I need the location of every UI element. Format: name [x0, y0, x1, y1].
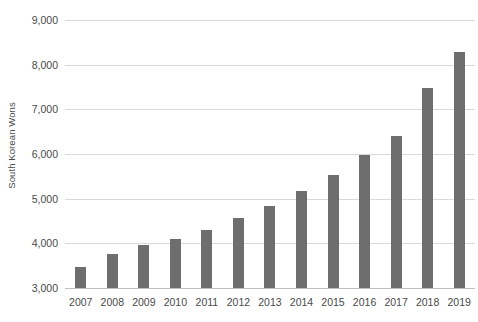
- x-axis-tick-label: 2017: [384, 296, 407, 308]
- bar-slot: [128, 20, 160, 288]
- x-axis-tick-slot: 2018: [412, 292, 444, 310]
- y-axis-tick-label: 9,000: [32, 14, 58, 26]
- bar-slot: [412, 20, 444, 288]
- x-axis-tick-label: 2016: [353, 296, 376, 308]
- bar[interactable]: [391, 136, 402, 288]
- y-axis-title-text: South Korean Wons: [6, 102, 17, 189]
- bar[interactable]: [264, 206, 275, 288]
- bar[interactable]: [107, 254, 118, 288]
- x-axis-tick-slot: 2013: [254, 292, 286, 310]
- y-axis-tick-label: 8,000: [32, 59, 58, 71]
- bar-slot: [254, 20, 286, 288]
- bar-slot: [65, 20, 97, 288]
- plot-area: 3,0004,0005,0006,0007,0008,0009,000: [65, 20, 475, 288]
- x-axis-tick-slot: 2008: [97, 292, 129, 310]
- y-axis-tick-label: 3,000: [32, 282, 58, 294]
- bar-slot: [443, 20, 475, 288]
- bars-layer: [65, 20, 475, 288]
- bar[interactable]: [422, 88, 433, 288]
- x-axis-tick-slot: 2011: [191, 292, 223, 310]
- y-axis-tick-label: 7,000: [32, 103, 58, 115]
- x-axis-labels: 2007200820092010201120122013201420152016…: [65, 292, 475, 310]
- bar-chart: South Korean Wons 3,0004,0005,0006,0007,…: [0, 0, 478, 322]
- bar[interactable]: [138, 245, 149, 288]
- x-axis-tick-slot: 2017: [380, 292, 412, 310]
- x-axis-tick-label: 2010: [164, 296, 187, 308]
- x-axis-tick-label: 2008: [101, 296, 124, 308]
- x-axis-tick-label: 2011: [196, 296, 219, 308]
- x-axis-tick-slot: 2015: [317, 292, 349, 310]
- bar[interactable]: [454, 52, 465, 288]
- bar[interactable]: [328, 175, 339, 288]
- x-axis-tick-slot: 2016: [349, 292, 381, 310]
- x-axis-tick-slot: 2019: [443, 292, 475, 310]
- bar[interactable]: [75, 267, 86, 288]
- x-axis-tick-label: 2019: [447, 296, 470, 308]
- x-axis-tick-label: 2014: [290, 296, 313, 308]
- x-axis-tick-label: 2013: [258, 296, 281, 308]
- bar[interactable]: [201, 230, 212, 288]
- bar[interactable]: [296, 191, 307, 288]
- x-axis-tick-label: 2018: [416, 296, 439, 308]
- x-axis-tick-label: 2012: [227, 296, 250, 308]
- bar-slot: [97, 20, 129, 288]
- x-axis-tick-slot: 2010: [160, 292, 192, 310]
- x-axis-tick-slot: 2009: [128, 292, 160, 310]
- x-axis-tick-label: 2015: [321, 296, 344, 308]
- x-axis-tick-label: 2007: [69, 296, 92, 308]
- gridline: [65, 288, 475, 289]
- bar-slot: [286, 20, 318, 288]
- bar-slot: [349, 20, 381, 288]
- bar-slot: [380, 20, 412, 288]
- y-axis-tick-label: 6,000: [32, 148, 58, 160]
- x-axis-tick-label: 2009: [132, 296, 155, 308]
- bar-slot: [191, 20, 223, 288]
- bar-slot: [160, 20, 192, 288]
- bar[interactable]: [359, 155, 370, 288]
- y-axis-tick-label: 4,000: [32, 237, 58, 249]
- x-axis-tick-slot: 2014: [286, 292, 318, 310]
- y-axis-title: South Korean Wons: [0, 0, 22, 290]
- bar-slot: [223, 20, 255, 288]
- bar[interactable]: [233, 218, 244, 288]
- x-axis-tick-slot: 2012: [223, 292, 255, 310]
- bar-slot: [317, 20, 349, 288]
- y-axis-tick-label: 5,000: [32, 193, 58, 205]
- x-axis-tick-slot: 2007: [65, 292, 97, 310]
- bar[interactable]: [170, 239, 181, 288]
